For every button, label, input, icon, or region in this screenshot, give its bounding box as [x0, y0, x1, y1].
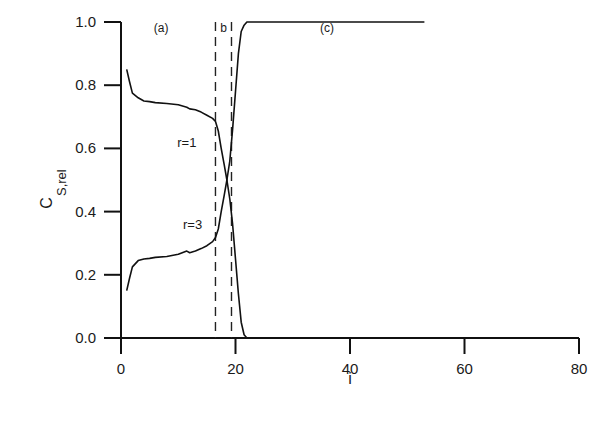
y-tick-label: 0.6: [75, 139, 96, 156]
region-label: (c): [320, 21, 334, 35]
x-tick-label: 0: [117, 360, 125, 377]
x-tick-label: 60: [456, 360, 473, 377]
y-tick-label: 1.0: [75, 13, 96, 30]
curve-label: r=3: [183, 217, 202, 232]
series-line-r3: [127, 22, 425, 291]
y-tick-label: 0.4: [75, 203, 96, 220]
x-axis-title: i: [348, 370, 352, 387]
data-series: [127, 22, 579, 338]
region-boundary-lines: [215, 22, 231, 338]
series-line-r1: [127, 69, 579, 338]
y-axis-title: C S,rel: [38, 169, 69, 209]
y-ticks: 0.00.20.40.60.81.0: [75, 13, 121, 346]
y-axis-title-subscript: S,rel: [54, 169, 69, 196]
y-tick-label: 0.8: [75, 76, 96, 93]
y-axis-title-main: C: [38, 197, 55, 209]
x-tick-label: 80: [571, 360, 588, 377]
axes: 0.00.20.40.60.81.0 020406080: [75, 13, 587, 377]
y-tick-label: 0.0: [75, 329, 96, 346]
x-tick-label: 20: [227, 360, 244, 377]
x-ticks: 020406080: [117, 338, 588, 377]
region-label: (a): [154, 21, 169, 35]
chart-figure: 0.00.20.40.60.81.0 020406080 (a)b(c)r=1r…: [0, 0, 616, 422]
curve-label: r=1: [177, 135, 196, 150]
annotations: (a)b(c)r=1r=3: [154, 21, 334, 233]
region-label: b: [220, 21, 227, 35]
y-tick-label: 0.2: [75, 266, 96, 283]
